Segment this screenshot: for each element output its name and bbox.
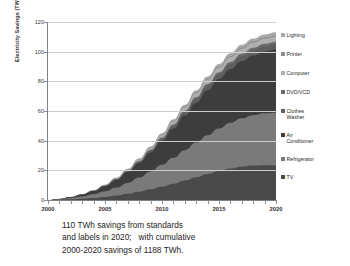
chart-legend: LightingPrinterComputerDVD/VCDClothes Wa…	[281, 32, 350, 202]
stacked-area-plot	[48, 22, 276, 200]
legend-item-computer[interactable]: Computer	[281, 70, 309, 76]
caption-line-3: 2000-2020 savings of 1188 TWh.	[62, 244, 342, 256]
gridline-40	[48, 141, 276, 142]
legend-item-label: Refrigerator	[287, 156, 314, 162]
gridline-60	[48, 111, 276, 112]
gridline-80	[48, 81, 276, 82]
figure-electricity-savings: Electricity Savings (TWh) 02040608010012…	[0, 0, 350, 266]
y-tickmark-80	[44, 81, 47, 82]
legend-item-dvd/vcd[interactable]: DVD/VCD	[281, 89, 310, 95]
legend-item-label: Computer	[287, 70, 310, 76]
gridline-20	[48, 170, 276, 171]
legend-item-label: DVD/VCD	[287, 89, 310, 95]
x-minor-tick-2002	[71, 201, 72, 204]
legend-swatch-icon	[281, 157, 285, 161]
gridline-100	[48, 52, 276, 53]
y-tickmark-0	[44, 200, 47, 201]
caption-line-2: and labels in 2020; with cumulative	[62, 231, 342, 243]
y-axis-tick-labels: 020406080100120	[18, 10, 44, 220]
y-tick-label-120: 120	[35, 19, 44, 25]
legend-swatch-icon	[281, 33, 285, 37]
legend-item-printer[interactable]: Printer	[281, 51, 302, 57]
y-tickmark-60	[44, 111, 47, 112]
caption-line-1: 110 TWh savings from standards	[62, 219, 342, 231]
x-tick-label-2005: 2005	[99, 206, 112, 212]
legend-item-label: Air Conditioner	[287, 132, 314, 144]
legend-item-clothes-washer[interactable]: Clothes Washer	[281, 108, 304, 120]
legend-item-lighting[interactable]: Lighting	[281, 32, 305, 38]
x-minor-tick-2014	[208, 201, 209, 204]
x-minor-tick-2017	[242, 201, 243, 204]
x-tick-label-2015: 2015	[213, 206, 226, 212]
x-minor-tick-2018	[253, 201, 254, 204]
x-minor-tick-2000	[48, 201, 49, 204]
x-minor-tick-2010	[162, 201, 163, 204]
x-minor-tick-2019	[265, 201, 266, 204]
x-minor-tick-2007	[128, 201, 129, 204]
x-axis-tick-labels: 20002005201020152020	[0, 206, 350, 220]
legend-swatch-icon	[281, 133, 285, 137]
legend-item-label: Lighting	[287, 32, 305, 38]
y-tickmark-20	[44, 170, 47, 171]
x-minor-tick-2005	[105, 201, 106, 204]
chart-plot-container: Electricity Savings (TWh) 02040608010012…	[0, 10, 350, 220]
x-minor-tick-2012	[185, 201, 186, 204]
legend-swatch-icon	[281, 71, 285, 75]
x-minor-tick-2015	[219, 201, 220, 204]
figure-caption: 110 TWh savings from standards and label…	[62, 219, 342, 256]
x-minor-tick-2020	[276, 201, 277, 204]
legend-swatch-icon	[281, 52, 285, 56]
legend-item-label: Printer	[287, 51, 302, 57]
x-minor-tick-2006	[116, 201, 117, 204]
legend-swatch-icon	[281, 175, 285, 179]
y-tickmark-120	[44, 22, 47, 23]
gridline-120	[48, 22, 276, 23]
legend-item-tv[interactable]: TV	[281, 174, 293, 180]
x-tick-label-2000: 2000	[42, 206, 55, 212]
x-minor-tick-2001	[59, 201, 60, 204]
x-minor-tick-2009	[151, 201, 152, 204]
legend-swatch-icon	[281, 109, 285, 113]
x-minor-tick-2011	[173, 201, 174, 204]
x-minor-tick-2016	[230, 201, 231, 204]
x-tick-label-2010: 2010	[156, 206, 169, 212]
x-minor-tick-2004	[94, 201, 95, 204]
y-tick-label-100: 100	[35, 49, 44, 55]
legend-item-refrigerator[interactable]: Refrigerator	[281, 156, 314, 162]
y-tickmark-100	[44, 52, 47, 53]
legend-item-air-conditioner[interactable]: Air Conditioner	[281, 132, 313, 144]
x-minor-tick-2013	[196, 201, 197, 204]
legend-item-label: Clothes Washer	[287, 108, 305, 120]
x-minor-tick-2003	[82, 201, 83, 204]
legend-swatch-icon	[281, 90, 285, 94]
y-tickmark-40	[44, 141, 47, 142]
legend-item-label: TV	[287, 174, 294, 180]
x-tick-label-2020: 2020	[270, 206, 283, 212]
x-minor-tick-2008	[139, 201, 140, 204]
